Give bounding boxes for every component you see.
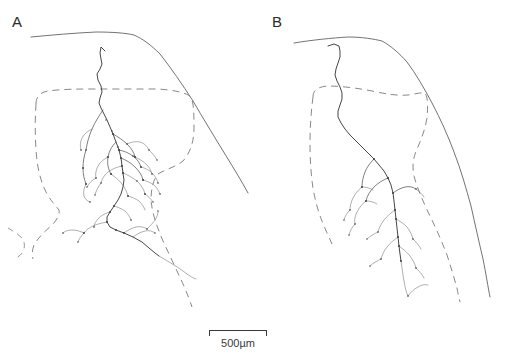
- scale-bar: 500µm: [206, 330, 270, 349]
- panel-b-dashed-boundary-right: [313, 86, 460, 302]
- panel-b-collateral: [367, 232, 378, 239]
- panel-b-collateral: [378, 210, 395, 232]
- panel-label-b: B: [272, 14, 283, 29]
- panel-b-collateral: [344, 210, 350, 220]
- panel-b-collateral: [355, 201, 366, 224]
- panel-b-solid-contour: [294, 37, 490, 297]
- figure-canvas: A B 500µm: [0, 0, 520, 360]
- partial-caption: [282, 349, 520, 358]
- panel-b-collateral: [408, 285, 428, 296]
- panel-b-collateral: [416, 268, 424, 278]
- panel-b-dashed-boundary-left: [310, 97, 332, 244]
- panel-b-collateral: [349, 224, 355, 235]
- scale-bar-line: [209, 330, 267, 336]
- panel-b-collateral: [381, 237, 398, 259]
- panel-b-collateral: [393, 187, 416, 193]
- panel-b-collateral: [401, 261, 408, 296]
- panel-b-collateral: [413, 239, 421, 249]
- panel-b-collateral: [370, 259, 381, 266]
- scale-bar-label: 500µm: [206, 337, 270, 349]
- panel-b-collateral: [396, 219, 413, 239]
- panel-b-collateral: [362, 159, 374, 187]
- panel-label-a: A: [12, 14, 23, 29]
- panel-b-collateral: [366, 178, 388, 201]
- panel-b-axon-trunk: [328, 44, 401, 261]
- panel-b-collateral: [366, 201, 377, 204]
- panel-b-boutons: [343, 158, 417, 297]
- panel-b-tracing: [0, 0, 520, 360]
